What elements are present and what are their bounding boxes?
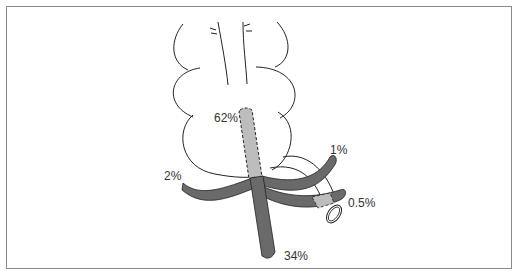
vessel-lower-right-branch [262,187,346,207]
vessel-lower-trunk [250,176,275,258]
label-lower-trunk: 34% [284,249,308,263]
vessel-diagram: 62% 34% 2% 1% 0.5% [0,0,519,273]
vessel-upper-right-branch [262,155,336,190]
vessel-tube-opening [323,202,344,225]
label-left-branch: 2% [164,169,182,183]
vessel-upper-trunk [239,108,262,179]
label-lower-right-branch: 0.5% [348,196,376,210]
label-upper-trunk: 62% [214,111,238,125]
label-upper-right-branch: 1% [330,143,348,157]
